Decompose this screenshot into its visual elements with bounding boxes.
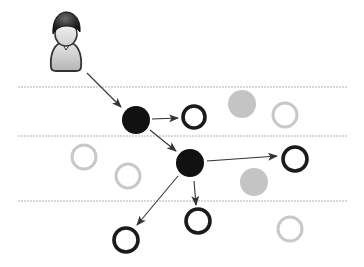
node-k-inactive-ring-circle-icon: [278, 217, 302, 241]
node-j-active-ring-circle-icon: [186, 209, 210, 233]
cascade-diagram: Information cascade from user through ne…: [0, 0, 364, 267]
nodes: [72, 90, 307, 252]
person-icon: [51, 12, 81, 71]
diagram-canvas: user: [0, 0, 364, 267]
node-b-active-ring-circle-icon: [183, 106, 205, 128]
node-l-active-ring-circle-icon: [114, 228, 138, 252]
divider-lines: [18, 87, 348, 201]
edge-g-to-h-arrow-icon: [207, 156, 277, 161]
node-c-inactive-filled-circle-icon: [228, 90, 256, 118]
node-h-active-ring-circle-icon: [283, 147, 307, 171]
node-a-active-filled-circle-icon: [122, 106, 150, 134]
edge-a-to-b-arrow-icon: [152, 118, 178, 119]
node-g-active-filled-circle-icon: [176, 149, 204, 177]
node-d-inactive-ring-circle-icon: [273, 103, 297, 127]
user-node: user: [0, 0, 81, 71]
node-f-inactive-ring-circle-icon: [116, 164, 140, 188]
node-i-inactive-filled-circle-icon: [240, 168, 268, 196]
edge-a-to-g-arrow-icon: [150, 130, 176, 151]
user-label: user: [0, 0, 35, 4]
edge-user-to-a-arrow-icon: [87, 73, 121, 107]
node-e-inactive-ring-circle-icon: [72, 145, 96, 169]
